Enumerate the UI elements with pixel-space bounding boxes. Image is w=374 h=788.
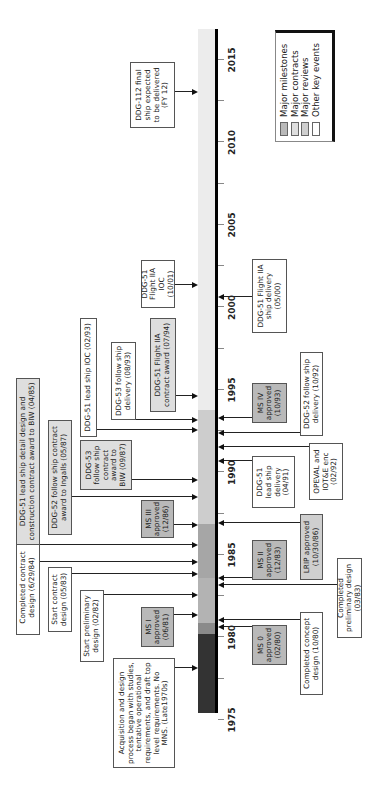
year-label: 1980 — [227, 625, 237, 650]
axis-tick — [218, 348, 224, 349]
legend-swatch-contracts — [291, 122, 299, 136]
phase-segment-concept — [198, 623, 215, 635]
arrowhead-icon — [192, 612, 198, 618]
event-connector — [224, 626, 252, 627]
phase-segment-pre-milestone — [198, 634, 215, 713]
legend-label: Major milestones — [279, 44, 290, 117]
arrowhead-icon — [218, 415, 224, 421]
phase-segment-production — [198, 410, 215, 524]
event-connector — [175, 91, 192, 92]
event-connector — [224, 522, 300, 523]
arrowhead-icon — [192, 477, 198, 483]
event-connector — [175, 284, 192, 285]
event-connector — [224, 446, 309, 447]
arrowhead-icon — [218, 430, 224, 436]
event-connector — [72, 573, 192, 574]
legend-item-reviews: Major reviews — [300, 38, 311, 136]
event-connector — [224, 296, 252, 297]
axis-tick — [218, 637, 224, 638]
year-label: 2000 — [227, 295, 237, 320]
event-box-ddg51-flight-iia-ioc: DDG-51 Flight IIA IOC (10/01) — [141, 260, 175, 308]
event-connector — [97, 429, 192, 430]
legend: Major milestones Major contracts Major r… — [275, 30, 335, 142]
legend-label: Major contracts — [290, 50, 301, 117]
axis-tick — [218, 59, 224, 60]
axis-tick — [218, 595, 224, 596]
arrowhead-icon — [192, 522, 198, 528]
arrowhead-icon — [192, 559, 198, 565]
legend-label: Major reviews — [300, 58, 311, 118]
event-box-ddg53-delivery: DDG-53 follow ship delivery (08/93) — [111, 342, 136, 420]
arrowhead-icon — [218, 520, 224, 526]
event-box-ddg51-lead-detail-design-contract: DDG-51 lead ship detail design and const… — [16, 378, 40, 545]
event-text: DDG-52 follow ship contract award to Ing… — [51, 423, 68, 532]
axis-tick — [218, 183, 224, 184]
arrowhead-icon — [218, 294, 224, 300]
arrowhead-icon — [218, 444, 224, 450]
event-text: MS II approved (12/83) — [257, 543, 283, 577]
phase-segment-follow-on — [198, 29, 215, 410]
event-text: DDG-52 follow ship delivery (10/92) — [303, 355, 320, 433]
event-text: Start contract design (05/83) — [51, 570, 68, 629]
axis-tick — [218, 307, 224, 308]
event-text: Start preliminary design (02/82) — [83, 593, 100, 659]
event-connector — [174, 614, 192, 615]
axis-tick — [218, 265, 224, 266]
event-connector — [174, 524, 192, 525]
event-box-start-contract-design: Start contract design (05/83) — [48, 567, 72, 632]
arrowhead-icon — [192, 571, 198, 577]
arrowhead-icon — [192, 417, 198, 423]
axis-tick — [218, 719, 224, 720]
event-connector — [224, 619, 300, 620]
event-box-ddg51-flight-iia-delivery: DDG-51 Flight IIA ship delivery (05/00) — [252, 259, 287, 333]
arrowhead-icon — [192, 665, 198, 671]
phase-segment-preliminary — [198, 578, 215, 623]
phase-segment-design — [198, 524, 215, 578]
event-connector — [132, 479, 192, 480]
event-box-lrip-approved: LRIP approved (10/30/86) — [300, 514, 323, 580]
legend-item-contracts: Major contracts — [290, 38, 301, 136]
event-box-ddg53-contract-biw: DDG-53 follow ship contract award to BIW… — [80, 440, 132, 490]
event-text: OPEVAL and IOT&E enc (02/92) — [313, 446, 339, 497]
event-text: LRIP approved (10/30/86) — [303, 517, 320, 577]
event-connector — [224, 577, 252, 578]
legend-swatch-other — [312, 122, 320, 136]
event-connector — [72, 496, 192, 497]
axis-tick — [218, 224, 224, 225]
event-connector — [224, 584, 337, 585]
year-label: 2015 — [227, 47, 237, 72]
event-box-ddg51-flight-iia-contract: DDG-51 Flight IIA contract award (07/94) — [150, 318, 176, 412]
event-box-ddg52-contract-ingalls: DDG-52 follow ship contract award to Ing… — [48, 420, 72, 535]
event-text: DDG-53 follow ship contract award to BIW… — [85, 443, 128, 487]
event-box-ms-i-approved: MS I approved (06/81) — [141, 607, 174, 647]
event-text: Completed concept design (10/80) — [303, 615, 320, 692]
year-label: 1995 — [227, 377, 237, 402]
event-connector — [176, 395, 192, 396]
event-text: MS I approved (06/81) — [145, 610, 171, 644]
year-label: 1990 — [227, 460, 237, 485]
arrowhead-icon — [218, 582, 224, 588]
event-text: MS IV approved (10/93) — [257, 386, 283, 420]
event-connector — [175, 667, 192, 668]
event-connector — [40, 561, 192, 562]
event-text: DDG-112 final ship expected to be delive… — [135, 65, 169, 125]
timeline-diagram: 197519801985199019952000200520102015 Acq… — [0, 0, 374, 788]
arrowhead-icon — [218, 458, 224, 464]
legend-item-other: Other key events — [311, 38, 322, 136]
event-text: DDG-51 lead ship detail design and const… — [19, 381, 36, 542]
event-text: DDG-51 Flight IIA contract award (07/94) — [154, 321, 171, 409]
axis-tick — [218, 554, 224, 555]
arrowhead-icon — [192, 393, 198, 399]
legend-swatch-reviews — [301, 122, 309, 136]
arrowhead-icon — [192, 542, 198, 548]
event-box-ms-iii-approved: MS III approved (12/86) — [141, 500, 174, 538]
event-box-ddg52-delivery: DDG-52 follow ship delivery (10/92) — [300, 352, 323, 436]
event-connector — [40, 544, 192, 545]
arrowhead-icon — [192, 427, 198, 433]
arrowhead-icon — [192, 494, 198, 500]
arrowhead-icon — [192, 282, 198, 288]
event-box-ms-iv-approved: MS IV approved (10/93) — [252, 383, 287, 423]
event-text: Acquisition and design process began wit… — [118, 661, 170, 765]
event-connector — [104, 594, 192, 595]
arrowhead-icon — [218, 575, 224, 581]
